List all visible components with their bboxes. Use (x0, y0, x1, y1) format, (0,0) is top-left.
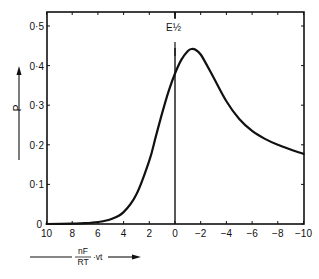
svg-text:E½: E½ (166, 22, 182, 33)
svg-text:·vt: ·vt (93, 252, 103, 262)
y-axis-ticks: 00·10·20·30·40·5 (30, 21, 304, 230)
x-tick-label: 10 (41, 228, 53, 239)
annotation-e-half: E½ (166, 22, 182, 33)
svg-text:RT: RT (77, 257, 88, 267)
x-tick-label: 0 (172, 228, 178, 239)
y-axis-label: P (12, 66, 23, 160)
y-tick-label: 0·5 (30, 21, 45, 32)
svg-text:P: P (12, 104, 23, 111)
x-tick-label: 6 (95, 228, 101, 239)
x-tick-label: 2 (147, 228, 153, 239)
x-tick-label: −8 (272, 228, 284, 239)
x-tick-label: −6 (246, 228, 258, 239)
y-tick-label: 0·3 (30, 100, 45, 111)
y-tick-label: 0·1 (30, 179, 45, 190)
x-tick-label: −4 (221, 228, 233, 239)
y-tick-label: 0·2 (30, 140, 45, 151)
x-tick-label: −10 (295, 228, 312, 239)
y-tick-label: 0 (36, 219, 42, 230)
chart: 1086420−2−4−6−8−10 00·10·20·30·40·5 E½ P… (0, 0, 319, 279)
y-tick-label: 0·4 (30, 61, 45, 72)
x-tick-label: 4 (121, 228, 127, 239)
x-axis-label: nF RT ·vt (30, 246, 141, 267)
x-tick-label: −2 (195, 228, 207, 239)
x-tick-label: 8 (69, 228, 75, 239)
svg-text:nF: nF (78, 246, 88, 256)
